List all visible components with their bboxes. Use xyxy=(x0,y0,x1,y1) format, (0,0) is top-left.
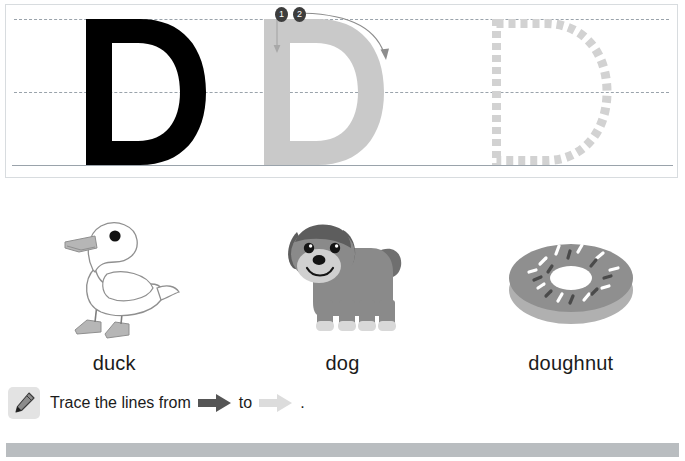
instruction-row: Trace the lines from to . xyxy=(0,383,685,423)
crayon-icon xyxy=(8,387,40,419)
instruction-text-middle: to xyxy=(239,394,252,412)
arrow-from-icon xyxy=(198,393,232,413)
letter-d-grey-guide xyxy=(256,5,396,179)
letter-d-grey-glyph xyxy=(256,5,421,179)
instruction-text-before: Trace the lines from xyxy=(50,394,191,412)
tracing-box: 1 2 xyxy=(5,4,678,178)
picture-caption-duck: duck xyxy=(93,352,136,375)
picture-row: duck xyxy=(0,190,685,375)
picture-caption-doughnut: doughnut xyxy=(528,352,613,375)
picture-cell-duck: duck xyxy=(0,190,228,375)
duck-illustration xyxy=(39,208,189,348)
picture-cell-dog: dog xyxy=(228,190,456,375)
doughnut-illustration xyxy=(496,208,646,348)
crayon-icon-glyph xyxy=(12,391,36,415)
dog-illustration xyxy=(267,208,417,348)
stroke-order-badge-2: 2 xyxy=(293,7,306,22)
instruction-text: Trace the lines from to . xyxy=(50,393,305,413)
arrow-to-icon xyxy=(259,393,293,413)
picture-caption-dog: dog xyxy=(326,352,360,375)
letter-d-solid-glyph xyxy=(78,5,218,179)
picture-cell-doughnut: doughnut xyxy=(457,190,685,375)
stroke-order-badge-1: 1 xyxy=(275,7,288,22)
letter-d-solid xyxy=(78,5,218,179)
letter-d-dotted-glyph xyxy=(484,5,624,179)
instruction-text-after: . xyxy=(300,394,304,412)
footer-bar xyxy=(6,443,679,457)
letter-d-dotted-outline xyxy=(484,5,624,179)
